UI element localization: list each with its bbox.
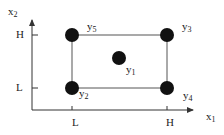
point-label-y3: y3 [182,21,192,34]
point-y2 [65,81,79,95]
x-tick-label-low: L [72,117,79,128]
x-tick-label-high: H [166,117,174,128]
point-y3 [160,28,174,42]
point-label-y1: y1 [126,64,136,77]
y-axis-label: x2 [8,6,18,19]
point-y5 [65,28,79,42]
point-label-y4: y4 [183,90,193,103]
y-tick-label-high: H [16,29,24,40]
point-y4 [160,81,174,95]
y-tick-label-low: L [16,82,23,93]
point-label-y2: y2 [79,88,89,101]
point-y1 [112,51,126,65]
x-axis-label: x1 [206,111,216,124]
point-label-y5: y5 [87,21,97,34]
